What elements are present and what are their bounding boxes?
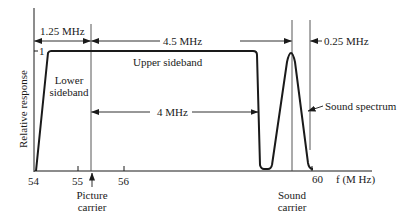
dim-4mhz-label: 4 MHz xyxy=(157,106,188,118)
sound-carrier-label-line2: carrier xyxy=(270,201,314,213)
x-tick-label-54: 54 xyxy=(28,175,39,187)
x-axis-label: f (M Hz) xyxy=(336,173,375,185)
picture-response-curve xyxy=(36,51,272,171)
dim-1.25mhz-label: 1.25 MHz xyxy=(40,25,85,37)
upper-sideband-label: Upper sideband xyxy=(133,56,202,68)
y-axis-label: Relative response xyxy=(17,70,29,148)
dim-0.25mhz-label: 0.25 MHz xyxy=(324,35,369,47)
sound-carrier-label-line1: Sound xyxy=(270,189,314,201)
picture-carrier-label-line2: carrier xyxy=(70,201,114,213)
sound-spectrum-label: Sound spectrum xyxy=(325,100,396,112)
lower-sideband-label-line2: sideband xyxy=(48,86,90,98)
picture-carrier-label-line1: Picture xyxy=(70,189,114,201)
dim-4.5mhz-label: 4.5 MHz xyxy=(163,35,202,47)
tv-channel-spectrum-diagram: Relative response 1 1.25 MHz 4.5 MHz 0.2… xyxy=(0,0,416,220)
x-tick-label-56: 56 xyxy=(118,175,129,187)
x-tick-label-60: 60 xyxy=(312,173,323,185)
sound-spectrum-curve xyxy=(272,53,313,169)
sound-carrier-label: Sound carrier xyxy=(270,189,314,213)
lower-sideband-label-line1: Lower xyxy=(48,74,90,86)
picture-carrier-label: Picture carrier xyxy=(70,189,114,213)
x-tick-label-55: 55 xyxy=(72,175,83,187)
y-tick-label-1: 1 xyxy=(39,45,45,57)
lower-sideband-label: Lower sideband xyxy=(48,74,90,98)
